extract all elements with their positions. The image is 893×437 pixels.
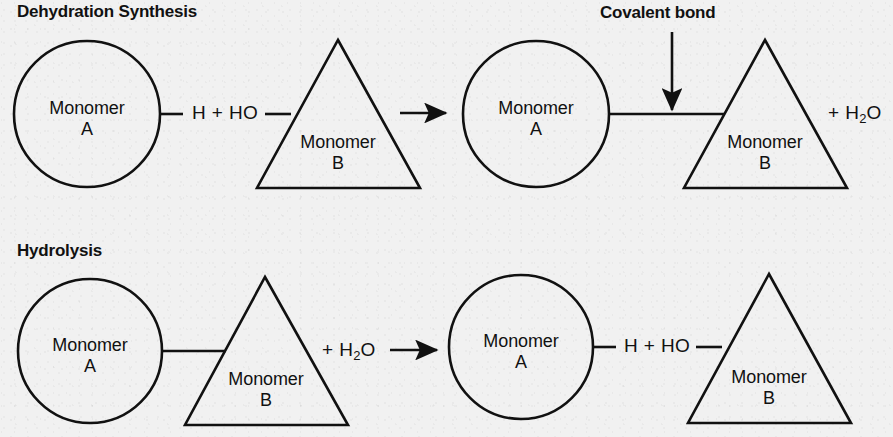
dehydration-reactant-circle-label: Monomer A (27, 99, 147, 139)
monomer-a-line1: Monomer (483, 331, 558, 351)
monomer-a-line2: A (476, 120, 596, 139)
dehydration-product-water-label: + H2O (828, 103, 882, 125)
monomer-b-line1: Monomer (731, 367, 806, 387)
monomer-b-line2: B (278, 154, 398, 173)
monomer-a-line1: Monomer (49, 98, 124, 118)
water-prefix: + H (828, 102, 859, 123)
monomer-b-line2: B (705, 154, 825, 173)
hydrolysis-reactant-triangle-label: Monomer B (206, 370, 326, 410)
hydrolysis-product-circle-label: Monomer A (461, 332, 581, 372)
dehydration-product-circle-label: Monomer A (476, 99, 596, 139)
dehydration-synthesis-heading: Dehydration Synthesis (17, 3, 197, 21)
hydrolysis-heading: Hydrolysis (17, 242, 102, 260)
hydrolysis-reactant-circle-label: Monomer A (30, 336, 150, 376)
monomer-a-line2: A (30, 357, 150, 376)
monomer-a-line2: A (27, 120, 147, 139)
dehydration-product-triangle-label: Monomer B (705, 133, 825, 173)
water-subscript: 2 (353, 348, 360, 363)
hydrolysis-product-triangle-label: Monomer B (709, 368, 829, 408)
water-prefix: + H (322, 339, 353, 360)
water-suffix: O (867, 102, 882, 123)
dehydration-reactant-triangle-label: Monomer B (278, 133, 398, 173)
monomer-b-line2: B (206, 391, 326, 410)
monomer-b-line1: Monomer (300, 132, 375, 152)
monomer-b-line2: B (709, 389, 829, 408)
water-suffix: O (361, 339, 376, 360)
dehydration-reactant-bond-label: H + HO (192, 103, 258, 123)
water-subscript: 2 (859, 111, 866, 126)
hydrolysis-product-bond-label: H + HO (624, 336, 690, 356)
monomer-a-line1: Monomer (52, 335, 127, 355)
covalent-bond-callout-label: Covalent bond (600, 4, 715, 22)
monomer-b-line1: Monomer (228, 369, 303, 389)
monomer-b-line1: Monomer (727, 132, 802, 152)
monomer-a-line2: A (461, 353, 581, 372)
hydrolysis-reactant-water-label: + H2O (322, 340, 376, 362)
monomer-a-line1: Monomer (498, 98, 573, 118)
